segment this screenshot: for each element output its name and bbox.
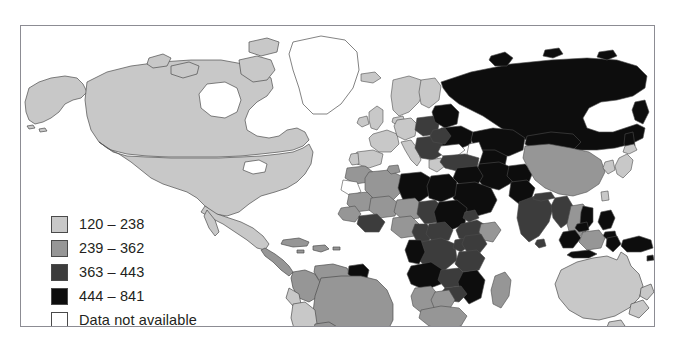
island-java [567, 250, 597, 258]
map-legend: 120 – 238 239 – 362 363 – 443 444 – 841 … [51, 212, 221, 327]
island-fiji [647, 255, 654, 261]
country-sri-lanka [535, 239, 546, 248]
country-finland [419, 78, 441, 108]
island-novaya-zemlya [489, 52, 513, 66]
country-madagascar [491, 272, 511, 308]
choropleth-figure: 120 – 238 239 – 362 363 – 443 444 – 841 … [0, 0, 675, 355]
country-alaska [25, 76, 87, 124]
legend-swatch-0 [51, 216, 68, 233]
island-aleutian-1 [27, 125, 35, 129]
country-iceland [361, 72, 381, 83]
legend-label-2: 363 – 443 [79, 265, 144, 280]
legend-item-0: 120 – 238 [51, 212, 221, 236]
legend-item-3: 444 – 841 [51, 284, 221, 308]
country-portugal [349, 153, 359, 165]
island-new-siberian [597, 50, 617, 60]
island-puerto-rico [333, 247, 340, 250]
country-nepal-bhutan [533, 192, 555, 201]
country-libya [398, 172, 431, 202]
country-peru [291, 302, 317, 326]
island-cuba [281, 238, 309, 247]
island-banks [147, 54, 171, 68]
country-greenland [289, 36, 359, 114]
legend-label-4: Data not available [79, 313, 197, 327]
country-united-kingdom [369, 106, 383, 130]
region-asia [517, 144, 653, 258]
legend-swatch-2 [51, 264, 68, 281]
island-severnaya-zemlya [543, 48, 563, 58]
legend-item-2: 363 – 443 [51, 260, 221, 284]
legend-label-3: 444 – 841 [79, 289, 144, 304]
country-angola [407, 262, 443, 290]
island-borneo [579, 230, 605, 250]
island-hispaniola [313, 245, 329, 252]
legend-swatch-4 [51, 312, 68, 328]
country-india [517, 196, 553, 242]
legend-swatch-1 [51, 240, 68, 257]
country-ireland [357, 116, 369, 127]
legend-label-0: 120 – 238 [79, 217, 144, 232]
map-frame: 120 – 238 239 – 362 363 – 443 444 – 841 … [20, 25, 655, 327]
region-south-america [286, 264, 393, 326]
country-japan [615, 154, 633, 178]
legend-label-1: 239 – 362 [79, 241, 144, 256]
island-philippines [598, 210, 615, 230]
country-france [369, 130, 399, 152]
island-new-guinea [621, 236, 653, 252]
region-oceania [555, 252, 654, 326]
island-tasmania [607, 320, 625, 326]
island-kamchatka [632, 100, 649, 124]
island-jamaica [297, 250, 304, 253]
island-aleutian-2 [39, 128, 47, 132]
island-taiwan [601, 191, 609, 201]
legend-swatch-3 [51, 288, 68, 305]
country-china [523, 144, 605, 196]
country-egypt [427, 174, 457, 202]
country-canada [85, 60, 309, 157]
legend-item-1: 239 – 362 [51, 236, 221, 260]
legend-item-4: Data not available [51, 308, 221, 327]
island-sulawesi [606, 236, 621, 252]
country-brazil [313, 276, 393, 326]
region-central-america [261, 248, 293, 276]
island-ellesmere [249, 38, 279, 56]
country-south-africa [419, 306, 467, 326]
